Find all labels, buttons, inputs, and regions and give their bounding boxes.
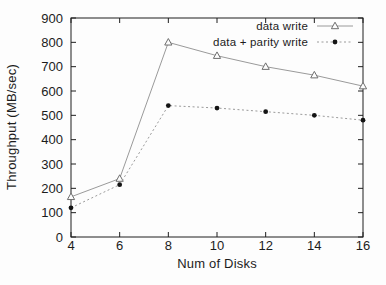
y-tick-label: 700	[41, 59, 63, 74]
x-axis-label: Num of Disks	[71, 256, 363, 271]
legend-sample-data-write-line-icon	[315, 20, 355, 32]
tick-marks	[71, 18, 363, 237]
x-tick-label: 16	[356, 238, 370, 253]
x-tick-label: 14	[307, 238, 321, 253]
series-markers-0	[67, 39, 366, 200]
series-markers-1	[69, 103, 366, 210]
x-tick-label: 4	[67, 238, 74, 253]
x-tick-label: 8	[165, 238, 172, 253]
legend-item-data-parity-write: data + parity write	[213, 34, 355, 50]
y-tick-label: 800	[41, 35, 63, 50]
series-line-0	[71, 42, 363, 197]
legend-item-data-write: data write	[213, 18, 355, 34]
y-tick-label: 0	[56, 230, 63, 245]
y-tick-label: 500	[41, 108, 63, 123]
y-tick-label: 600	[41, 84, 63, 99]
y-tick-label: 400	[41, 132, 63, 147]
triangle-marker	[165, 39, 172, 46]
series-line-1	[71, 106, 363, 208]
y-axis-label: Throughput (MB/sec)	[4, 17, 22, 237]
y-tick-label: 200	[41, 181, 63, 196]
y-tick-label: 100	[41, 205, 63, 220]
circle-marker	[333, 40, 338, 45]
plot-frame	[71, 18, 363, 237]
circle-marker	[69, 205, 74, 210]
legend-label-data-write: data write	[256, 20, 308, 32]
circle-marker	[215, 106, 220, 111]
circle-marker	[263, 109, 268, 114]
circle-marker	[312, 113, 317, 118]
triangle-marker	[331, 22, 338, 29]
x-tick-label: 10	[210, 238, 224, 253]
x-tick-label: 12	[258, 238, 272, 253]
legend-label-data-parity-write: data + parity write	[213, 36, 308, 48]
circle-marker	[117, 182, 122, 187]
circle-marker	[361, 118, 366, 123]
legend-sample-data-parity-write-line-icon	[315, 36, 355, 48]
circle-marker	[166, 103, 171, 108]
throughput-vs-disks-chart: 468101214160100200300400500600700800900 …	[0, 0, 386, 285]
y-tick-label: 900	[41, 11, 63, 26]
x-tick-label: 6	[116, 238, 123, 253]
legend: data write data + parity write	[213, 18, 355, 50]
y-tick-label: 300	[41, 157, 63, 172]
